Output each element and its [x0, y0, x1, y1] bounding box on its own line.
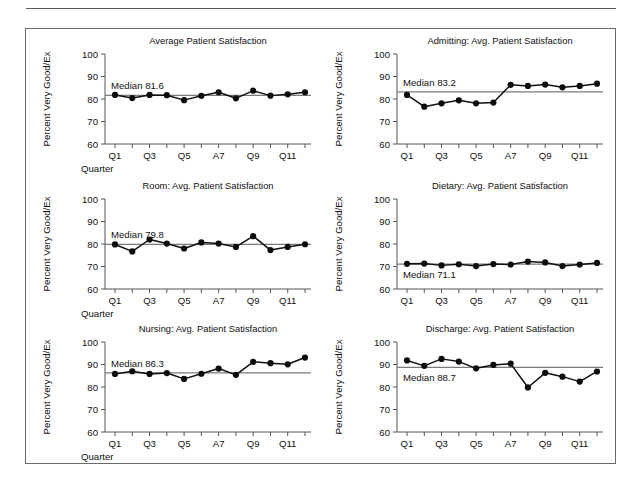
- chart-title: Admitting: Avg. Patient Satisfaction: [427, 35, 572, 46]
- x-tick-label: Q1: [109, 438, 122, 449]
- x-tick-label: Q3: [435, 295, 448, 306]
- data-point: [525, 258, 531, 264]
- median-label: Median 79.8: [111, 229, 164, 240]
- data-point: [421, 260, 427, 266]
- data-point: [146, 371, 152, 377]
- x-tick-label: Q1: [401, 438, 414, 449]
- x-tick-label: Q9: [539, 295, 552, 306]
- x-tick-label: Q1: [401, 150, 414, 161]
- data-point: [577, 261, 583, 267]
- x-tick-label: Q9: [539, 150, 552, 161]
- data-point: [490, 100, 496, 106]
- y-tick-label: 80: [87, 94, 98, 105]
- x-tick-label: Q1: [401, 295, 414, 306]
- x-tick-label: Q1: [109, 295, 122, 306]
- x-tick-label: Q5: [178, 438, 191, 449]
- y-tick-label: 70: [87, 404, 98, 415]
- x-tick-label: Q3: [435, 150, 448, 161]
- y-tick-label: 100: [374, 49, 390, 60]
- data-point: [233, 244, 239, 250]
- y-tick-label: 90: [87, 71, 98, 82]
- y-tick-label: 80: [379, 94, 390, 105]
- data-point: [285, 91, 291, 97]
- data-point: [438, 262, 444, 268]
- x-tick-label: Q5: [470, 438, 483, 449]
- y-tick-label: 60: [379, 427, 390, 438]
- data-point: [250, 359, 256, 365]
- data-point: [508, 361, 514, 367]
- x-tick-label: Q1: [109, 150, 122, 161]
- y-axis-label: Percent Very Good/Ex: [333, 196, 344, 291]
- x-tick-label: Q9: [247, 150, 260, 161]
- x-tick-label: A7: [505, 295, 517, 306]
- y-tick-label: 100: [374, 194, 390, 205]
- data-point: [233, 372, 239, 378]
- median-label: Median 86.3: [111, 358, 164, 369]
- y-tick-label: 100: [374, 337, 390, 348]
- x-tick-label: Q9: [247, 295, 260, 306]
- data-point: [267, 247, 273, 253]
- chart-panel-1: Admitting: Avg. Patient SatisfactionPerc…: [320, 32, 615, 177]
- data-point: [181, 97, 187, 103]
- data-point: [198, 239, 204, 245]
- data-point: [285, 361, 291, 367]
- y-tick-label: 70: [379, 116, 390, 127]
- y-tick-label: 90: [87, 359, 98, 370]
- data-point: [216, 89, 222, 95]
- data-point: [559, 84, 565, 90]
- data-point: [542, 82, 548, 88]
- data-point: [594, 368, 600, 374]
- y-axis-label: Percent Very Good/Ex: [41, 196, 52, 291]
- panel-grid: Average Patient SatisfactionPercent Very…: [26, 29, 615, 463]
- data-point: [164, 370, 170, 376]
- y-tick-label: 100: [82, 337, 98, 348]
- x-tick-label: A7: [213, 295, 225, 306]
- data-point: [112, 241, 118, 247]
- x-tick-label: Q11: [571, 295, 588, 306]
- x-tick-label: Q3: [143, 295, 156, 306]
- data-point: [216, 365, 222, 371]
- chart-panel-0: Average Patient SatisfactionPercent Very…: [28, 32, 323, 177]
- data-point: [542, 259, 548, 265]
- data-point: [559, 263, 565, 269]
- data-point: [421, 363, 427, 369]
- data-point: [594, 260, 600, 266]
- data-point: [285, 244, 291, 250]
- y-tick-label: 70: [87, 116, 98, 127]
- figure-frame: Average Patient SatisfactionPercent Very…: [25, 28, 616, 464]
- x-tick-label: Q11: [571, 150, 588, 161]
- y-tick-label: 60: [379, 284, 390, 295]
- y-tick-label: 90: [379, 359, 390, 370]
- x-tick-label: Q9: [247, 438, 260, 449]
- data-point: [404, 92, 410, 98]
- x-tick-label: Q9: [539, 438, 552, 449]
- chart-panel-2: Room: Avg. Patient SatisfactionPercent V…: [28, 177, 323, 322]
- x-tick-label: Q5: [470, 150, 483, 161]
- data-point: [490, 362, 496, 368]
- data-point: [267, 360, 273, 366]
- data-point: [404, 261, 410, 267]
- data-point: [490, 261, 496, 267]
- chart-title: Dietary: Avg. Patient Satisfaction: [432, 180, 568, 191]
- data-point: [508, 261, 514, 267]
- figure-page: Average Patient SatisfactionPercent Very…: [0, 0, 644, 499]
- page-top-rule: [26, 8, 616, 9]
- chart-title: Average Patient Satisfaction: [149, 35, 267, 46]
- y-tick-label: 60: [87, 284, 98, 295]
- data-point: [302, 241, 308, 247]
- data-point: [508, 82, 514, 88]
- data-point: [525, 384, 531, 390]
- data-point: [181, 376, 187, 382]
- data-point: [129, 368, 135, 374]
- median-label: Median 83.2: [403, 77, 456, 88]
- y-axis-label: Percent Very Good/Ex: [333, 339, 344, 434]
- data-point: [302, 354, 308, 360]
- chart-title: Discharge: Avg. Patient Satisfaction: [426, 323, 574, 334]
- median-label: Median 71.1: [403, 269, 456, 280]
- data-point: [112, 92, 118, 98]
- data-point: [473, 365, 479, 371]
- x-tick-label: Q5: [470, 295, 483, 306]
- y-tick-label: 80: [379, 382, 390, 393]
- y-axis-label: Percent Very Good/Ex: [41, 339, 52, 434]
- data-point: [164, 92, 170, 98]
